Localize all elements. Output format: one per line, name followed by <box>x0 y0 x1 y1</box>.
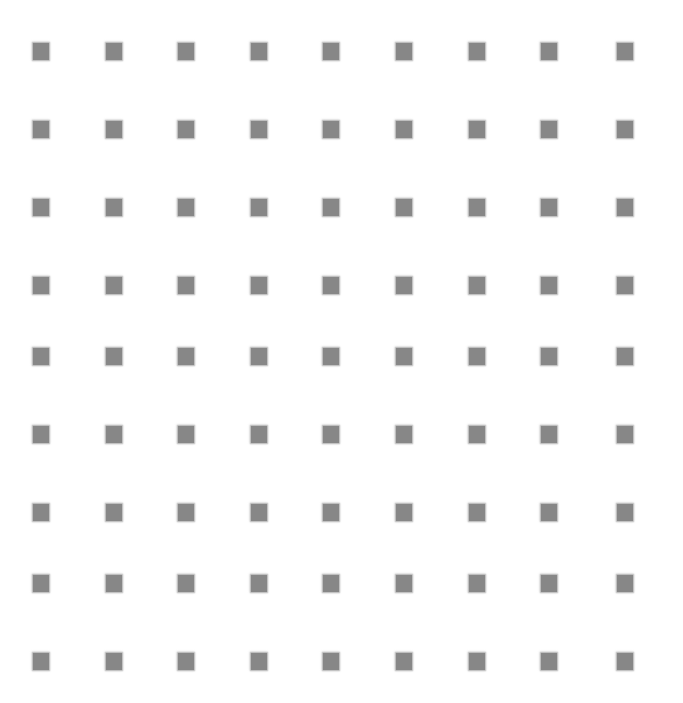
grid-row <box>0 575 683 592</box>
grid-square-marker <box>178 504 194 521</box>
grid-square-marker <box>33 575 49 592</box>
grid-square-marker <box>106 277 122 294</box>
grid-square-marker <box>323 575 339 592</box>
grid-square-marker <box>396 348 412 365</box>
grid-row <box>0 653 683 670</box>
grid-square-marker <box>323 348 339 365</box>
grid-square-marker <box>469 121 485 138</box>
grid-square-marker <box>251 277 267 294</box>
grid-square-marker <box>617 121 633 138</box>
grid-square-marker <box>106 199 122 216</box>
grid-square-marker <box>178 199 194 216</box>
grid-square-marker <box>323 653 339 670</box>
grid-square-marker <box>106 575 122 592</box>
grid-square-marker <box>541 43 557 60</box>
grid-square-marker <box>617 504 633 521</box>
grid-square-marker <box>251 348 267 365</box>
grid-square-marker <box>178 653 194 670</box>
grid-square-marker <box>469 277 485 294</box>
grid-row <box>0 199 683 216</box>
grid-square-marker <box>617 653 633 670</box>
grid-square-marker <box>178 43 194 60</box>
pattern-canvas <box>0 0 683 703</box>
grid-square-marker <box>617 348 633 365</box>
grid-square-marker <box>541 121 557 138</box>
grid-square-marker <box>541 575 557 592</box>
grid-square-marker <box>106 121 122 138</box>
grid-row <box>0 121 683 138</box>
grid-square-marker <box>323 199 339 216</box>
grid-square-marker <box>251 426 267 443</box>
grid-square-marker <box>617 426 633 443</box>
grid-square-marker <box>469 43 485 60</box>
grid-square-marker <box>396 504 412 521</box>
grid-square-marker <box>541 348 557 365</box>
grid-square-marker <box>469 653 485 670</box>
grid-square-marker <box>251 121 267 138</box>
grid-square-marker <box>617 277 633 294</box>
grid-square-marker <box>396 43 412 60</box>
grid-square-marker <box>396 426 412 443</box>
grid-square-marker <box>396 575 412 592</box>
grid-square-marker <box>617 575 633 592</box>
grid-square-marker <box>541 426 557 443</box>
grid-square-marker <box>396 121 412 138</box>
grid-square-marker <box>251 199 267 216</box>
grid-square-marker <box>617 199 633 216</box>
grid-square-marker <box>617 43 633 60</box>
grid-square-marker <box>33 121 49 138</box>
grid-square-marker <box>469 426 485 443</box>
grid-square-marker <box>33 43 49 60</box>
grid-square-marker <box>396 277 412 294</box>
grid-square-marker <box>469 199 485 216</box>
grid-square-marker <box>33 277 49 294</box>
grid-square-marker <box>178 121 194 138</box>
grid-square-marker <box>178 277 194 294</box>
grid-square-marker <box>251 575 267 592</box>
grid-square-marker <box>251 43 267 60</box>
grid-square-marker <box>106 653 122 670</box>
grid-square-marker <box>323 277 339 294</box>
grid-square-marker <box>541 504 557 521</box>
grid-square-marker <box>541 277 557 294</box>
grid-square-marker <box>469 348 485 365</box>
grid-square-marker <box>33 504 49 521</box>
grid-square-marker <box>33 348 49 365</box>
grid-square-marker <box>323 504 339 521</box>
grid-row <box>0 504 683 521</box>
grid-square-marker <box>469 504 485 521</box>
grid-square-marker <box>106 426 122 443</box>
grid-row <box>0 426 683 443</box>
grid-square-marker <box>33 653 49 670</box>
grid-row <box>0 43 683 60</box>
grid-row <box>0 277 683 294</box>
grid-square-marker <box>33 199 49 216</box>
grid-square-marker <box>178 426 194 443</box>
grid-row <box>0 348 683 365</box>
grid-square-marker <box>106 504 122 521</box>
grid-square-marker <box>323 121 339 138</box>
grid-square-marker <box>33 426 49 443</box>
grid-square-marker <box>541 653 557 670</box>
grid-square-marker <box>541 199 557 216</box>
grid-square-marker <box>396 653 412 670</box>
grid-square-marker <box>178 348 194 365</box>
grid-square-marker <box>323 426 339 443</box>
grid-square-marker <box>251 504 267 521</box>
grid-square-marker <box>323 43 339 60</box>
grid-square-marker <box>251 653 267 670</box>
grid-square-marker <box>178 575 194 592</box>
grid-square-marker <box>106 43 122 60</box>
grid-square-marker <box>469 575 485 592</box>
grid-square-marker <box>396 199 412 216</box>
grid-square-marker <box>106 348 122 365</box>
